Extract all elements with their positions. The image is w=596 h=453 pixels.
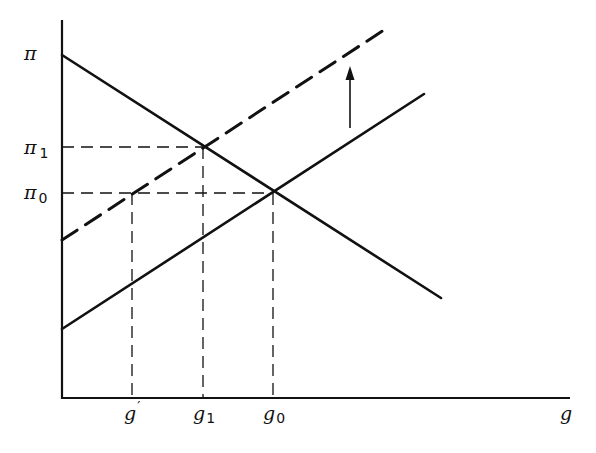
y-label-pi: π <box>23 42 37 64</box>
guide-lines <box>62 147 273 398</box>
y-label-pi0: π0 <box>23 181 47 206</box>
diagram-canvas: π π1 π0 g′ g1 g0 g <box>0 0 596 453</box>
y-label-pi1: π1 <box>23 136 48 161</box>
x-label-g1: g1 <box>193 402 215 426</box>
x-label-g-prime: g′ <box>124 398 140 424</box>
upward-sloping-line-shifted <box>62 30 384 240</box>
upward-sloping-line-initial <box>62 94 424 329</box>
downward-sloping-line <box>62 55 441 298</box>
x-axis-label: g <box>560 402 572 424</box>
x-label-g0: g0 <box>263 402 285 426</box>
shift-arrow-icon <box>346 66 355 128</box>
